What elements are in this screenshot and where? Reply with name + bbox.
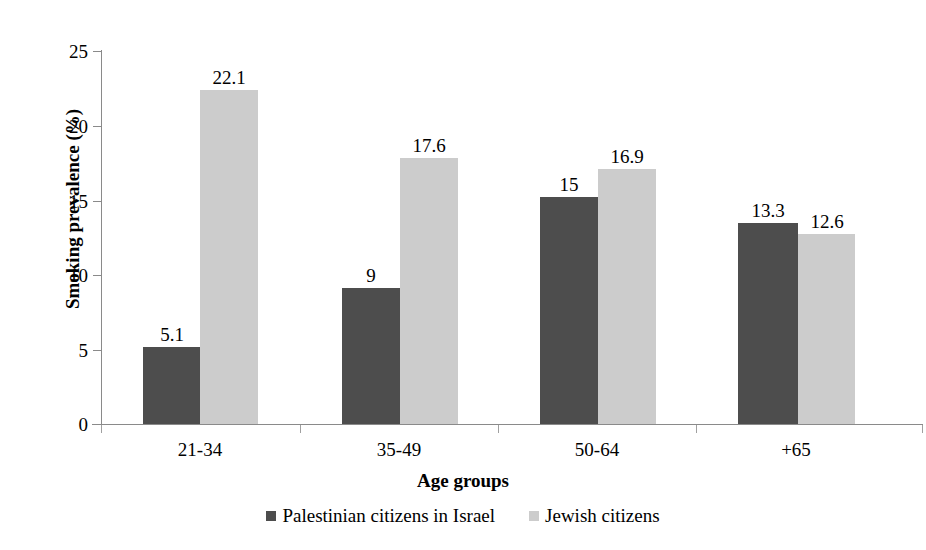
x-tick-mark-2	[498, 425, 499, 433]
x-category-label-21-34: 21-34	[130, 440, 270, 460]
bar-value-label: 16.9	[582, 147, 672, 166]
bar-group-21-34-jewish[interactable]: 22.1	[200, 0, 258, 424]
x-tick-mark-4	[922, 425, 923, 433]
bars-layer: 5.1 22.1 9 17.6 15 16.9 13.3	[0, 0, 926, 424]
bar-rect[interactable]	[342, 288, 400, 424]
legend-swatch-icon	[266, 511, 276, 521]
x-axis-line	[92, 424, 923, 425]
legend-label: Jewish citizens	[545, 505, 660, 527]
bar-rect[interactable]	[540, 197, 598, 424]
bar-group-50-64-jewish[interactable]: 16.9	[598, 0, 656, 424]
x-category-label-50-64: 50-64	[527, 440, 667, 460]
x-category-label-35-49: 35-49	[329, 440, 469, 460]
bar-rect[interactable]	[143, 347, 200, 424]
x-axis-title: Age groups	[0, 470, 926, 492]
chart-figure: Smoking prevalence (%) 25 20 15 10 5 0 5…	[0, 0, 926, 550]
bar-group-21-34-palestinian[interactable]: 5.1	[143, 0, 200, 424]
x-tick-mark-3	[696, 425, 697, 433]
bar-rect[interactable]	[798, 234, 855, 424]
chart-legend: Palestinian citizens in Israel Jewish ci…	[0, 505, 926, 527]
x-category-label-65: +65	[726, 440, 866, 460]
x-tick-mark-0	[101, 425, 102, 433]
x-tick-mark-1	[300, 425, 301, 433]
bar-value-label: 12.6	[782, 212, 872, 231]
legend-item-palestinian[interactable]: Palestinian citizens in Israel	[266, 505, 495, 527]
bar-group-35-49-jewish[interactable]: 17.6	[400, 0, 458, 424]
bar-group-65-jewish[interactable]: 12.6	[798, 0, 855, 424]
bar-rect[interactable]	[200, 90, 258, 424]
legend-label: Palestinian citizens in Israel	[282, 505, 495, 527]
bar-value-label: 17.6	[384, 136, 474, 155]
bar-rect[interactable]	[598, 169, 656, 424]
bar-rect[interactable]	[400, 158, 458, 424]
bar-rect[interactable]	[738, 223, 798, 424]
legend-item-jewish[interactable]: Jewish citizens	[529, 505, 660, 527]
legend-swatch-icon	[529, 511, 539, 521]
bar-value-label: 22.1	[184, 68, 274, 87]
bar-group-50-64-palestinian[interactable]: 15	[540, 0, 598, 424]
bar-group-35-49-palestinian[interactable]: 9	[342, 0, 400, 424]
